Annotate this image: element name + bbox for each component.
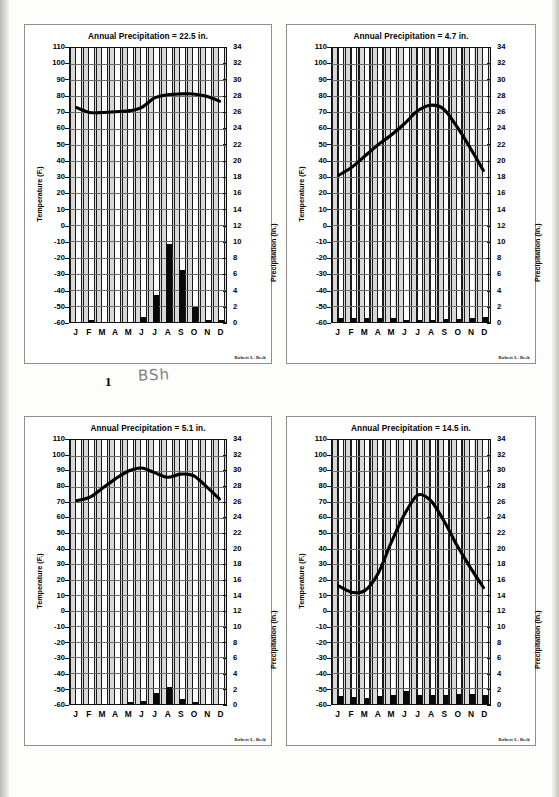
chart-title: Annual Precipitation = 4.7 in. (287, 32, 535, 41)
y-axis-tick-label: -60 (287, 701, 327, 709)
y2-axis-tick-label: 26 (490, 498, 535, 506)
y-axis-tick-mark (327, 47, 331, 48)
y2-axis-tick-label: 8 (490, 639, 535, 647)
y2-axis-tick-mark (487, 323, 491, 324)
y2-axis-tick-label: 28 (226, 92, 271, 100)
y2-axis-tick-label: 20 (490, 157, 535, 165)
y-axis-tick-label: 70 (287, 498, 327, 506)
y-axis-tick-mark (327, 63, 331, 64)
y-axis-title: Temperature (F.) (35, 553, 44, 608)
x-axis-month-label: M (125, 327, 132, 337)
y-axis-tick-mark (327, 611, 331, 612)
x-axis-month-label: D (481, 709, 487, 719)
y2-axis-tick-mark (223, 502, 227, 503)
y2-axis-tick-label: 16 (226, 189, 271, 197)
y-axis-tick-label: 70 (25, 108, 65, 116)
y2-axis-tick-label: 0 (490, 701, 535, 709)
x-axis-month-label: S (442, 709, 448, 719)
y-axis-tick-label: 20 (25, 189, 65, 197)
chart-title: Annual Precipitation = 14.5 in. (287, 424, 535, 433)
climograph-cell-4: Annual Precipitation = 14.5 in.110100908… (278, 406, 550, 792)
y-axis-tick-mark (327, 549, 331, 550)
y2-axis-tick-label: 34 (490, 435, 535, 443)
climograph-4: Annual Precipitation = 14.5 in.110100908… (286, 416, 536, 746)
y2-axis-tick-mark (487, 549, 491, 550)
x-axis-month-label: A (112, 709, 118, 719)
y2-axis-tick-mark (223, 611, 227, 612)
y-axis-tick-label: -60 (25, 319, 65, 327)
y2-axis-tick-label: 4 (226, 670, 271, 678)
y2-axis-tick-label: 14 (490, 206, 535, 214)
x-axis-month-label: N (204, 327, 210, 337)
y-axis-tick-mark (65, 96, 69, 97)
y2-axis-tick-mark (223, 642, 227, 643)
x-axis-month-label: S (442, 327, 448, 337)
y2-axis-tick-label: 16 (226, 576, 271, 584)
y-axis-tick-label: 40 (25, 545, 65, 553)
y2-axis-tick-mark (487, 63, 491, 64)
y2-axis-tick-label: 24 (226, 513, 271, 521)
y-axis-tick-label: 100 (287, 451, 327, 459)
y2-axis-tick-mark (223, 161, 227, 162)
y-axis-tick-mark (65, 627, 69, 628)
x-axis-month-label: J (139, 327, 144, 337)
chart-title: Annual Precipitation = 5.1 in. (25, 424, 271, 433)
x-axis-month-label: D (217, 327, 223, 337)
y2-axis-tick-mark (223, 455, 227, 456)
x-axis-month-label: A (165, 709, 171, 719)
y2-axis-tick-mark (223, 226, 227, 227)
y-axis-tick-label: -50 (287, 686, 327, 694)
y-axis-tick-label: 30 (287, 173, 327, 181)
y2-axis-tick-label: 34 (490, 43, 535, 51)
x-axis-month-label: J (73, 709, 78, 719)
y-axis-tick-label: -30 (287, 270, 327, 278)
climograph-cell-1: Annual Precipitation = 22.5 in.110100908… (10, 6, 278, 406)
y-axis-tick-mark (65, 595, 69, 596)
x-axis-month-label: J (152, 709, 157, 719)
y-axis-tick-mark (65, 658, 69, 659)
y-axis-tick-label: 80 (287, 482, 327, 490)
x-axis-month-label: A (428, 709, 434, 719)
y2-axis-tick-mark (487, 144, 491, 145)
x-axis-month-label: N (468, 709, 474, 719)
y-axis-tick-mark (65, 323, 69, 324)
y-axis-tick-mark (327, 658, 331, 659)
y2-axis-tick-mark (223, 674, 227, 675)
y-axis-tick-mark (327, 274, 331, 275)
y-axis-tick-label: 60 (287, 124, 327, 132)
y2-axis-tick-label: 22 (226, 529, 271, 537)
y2-axis-tick-mark (487, 112, 491, 113)
y-axis-tick-mark (327, 242, 331, 243)
y-axis-tick-label: -10 (25, 238, 65, 246)
y-axis-tick-mark (65, 502, 69, 503)
x-axis-month-label: J (139, 709, 144, 719)
y2-axis-tick-mark (223, 79, 227, 80)
x-axis-month-label: S (178, 709, 184, 719)
y2-axis-tick-label: 24 (490, 513, 535, 521)
y2-axis-tick-mark (223, 564, 227, 565)
y2-axis-tick-label: 8 (226, 639, 271, 647)
y2-axis-tick-mark (487, 79, 491, 80)
y-axis-tick-mark (65, 705, 69, 706)
y-axis-tick-label: 90 (287, 466, 327, 474)
y2-axis-tick-label: 30 (490, 76, 535, 84)
y-axis-tick-mark (327, 533, 331, 534)
y2-axis-tick-label: 26 (226, 498, 271, 506)
y2-axis-tick-mark (487, 177, 491, 178)
y-axis-tick-label: 80 (25, 92, 65, 100)
y2-axis-tick-label: 30 (226, 466, 271, 474)
y2-axis-tick-label: 0 (490, 319, 535, 327)
y-axis-tick-label: 90 (25, 76, 65, 84)
y-axis-tick-label: 90 (287, 76, 327, 84)
y2-axis-tick-label: 18 (226, 173, 271, 181)
y-axis-tick-mark (327, 564, 331, 565)
y2-axis-tick-mark (223, 274, 227, 275)
y2-axis-tick-label: 10 (226, 623, 271, 631)
y-axis-tick-mark (65, 517, 69, 518)
y2-axis-tick-label: 26 (490, 108, 535, 116)
y2-axis-tick-mark (487, 642, 491, 643)
y2-axis-tick-mark (223, 209, 227, 210)
y-axis-tick-label: 50 (287, 141, 327, 149)
x-axis-month-label: F (348, 327, 353, 337)
x-axis-month-label: J (335, 709, 340, 719)
